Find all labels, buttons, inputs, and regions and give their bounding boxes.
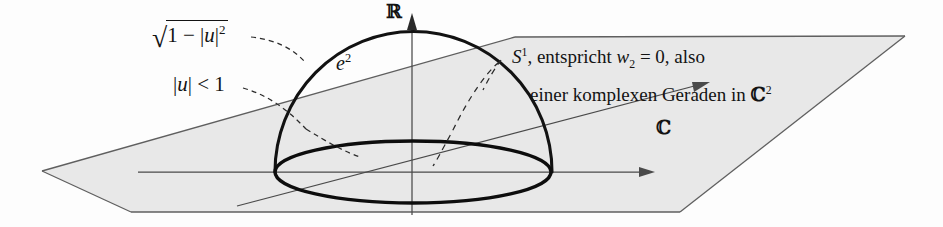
radical-sign: √ [152,30,167,47]
circle-annotation-text-b: = 0, also [635,46,705,67]
circle-annotation: S1, entspricht w2 = 0, also einer komple… [512,40,772,108]
figure-canvas [0,0,943,227]
circle-annotation-complex-exponent: 2 [766,84,772,97]
chart-label-base: e [336,52,345,74]
radicand-variable: u [204,23,215,47]
radicand-prefix: 1 − | [167,23,204,47]
circle-annotation-text-c: einer komplexen Geraden in [530,84,751,105]
disk-label-suffix: | < 1 [188,72,225,96]
disk-label: |u| < 1 [173,72,225,97]
circle-annotation-variable: w [617,46,630,67]
chart-label-e2: e2 [336,51,351,75]
radicand-exponent: 2 [219,22,226,37]
circle-annotation-line-1: S1, entspricht w2 = 0, also [512,40,772,78]
vertical-axis-arrowhead [407,13,417,30]
chart-label-exponent: 2 [345,51,351,65]
complex-plane-slab [42,36,905,212]
circle-annotation-text-a: , entspricht [527,46,616,67]
complex-plane-label: ℂ [656,116,671,138]
circle-annotation-complex-symbol: ℂ [751,83,766,105]
circle-annotation-line-2: einer komplexen Geraden in ℂ2 [530,78,772,108]
disk-label-variable: u [177,72,188,96]
math-figure: √1 − |u|2 |u| < 1 e2 ℝ ℂ S1, entspricht … [0,0,943,227]
real-axis-label: ℝ [386,0,402,22]
height-label: √1 − |u|2 [152,20,228,48]
leader-sqrt-label [251,37,305,62]
circle-annotation-symbol: S [512,46,522,67]
